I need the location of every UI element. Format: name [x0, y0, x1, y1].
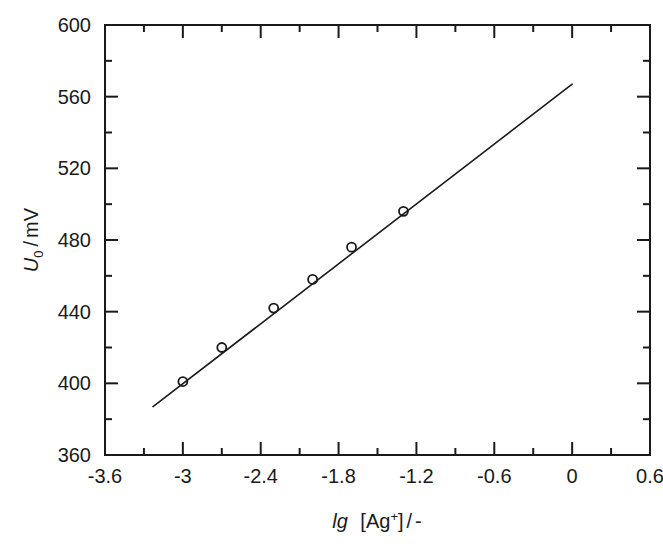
x-axis-title-separator: /	[407, 510, 413, 532]
x-axis-title: lg [Ag+]/-	[332, 509, 422, 532]
x-axis-title-bracket-open: [Ag	[360, 510, 390, 532]
y-axis-ticks	[105, 25, 650, 455]
y-tick-label: 600	[58, 14, 91, 36]
x-axis-title-charge: +	[390, 509, 398, 524]
data-point-marker	[347, 243, 356, 252]
y-axis-title: U0/mV	[20, 207, 46, 272]
x-axis-ticks	[105, 25, 650, 455]
y-axis-title-symbol: U	[20, 257, 42, 272]
data-point-markers	[178, 207, 408, 386]
y-axis-title-separator: /	[20, 240, 42, 246]
x-axis-title-bracket-close: ]	[398, 510, 404, 532]
x-axis-title-symbol: lg	[332, 510, 348, 532]
x-axis-tick-labels: -3.6-3-2.4-1.8-1.2-0.600.6	[88, 465, 663, 487]
y-tick-label: 560	[58, 86, 91, 108]
y-tick-label: 400	[58, 372, 91, 394]
linear-fit-line	[153, 84, 572, 407]
x-axis-title-unit: -	[415, 510, 422, 532]
x-tick-label: 0	[567, 465, 578, 487]
fit-line	[153, 84, 572, 407]
x-tick-label: -0.6	[477, 465, 511, 487]
y-tick-label: 360	[58, 444, 91, 466]
chart-figure: -3.6-3-2.4-1.8-1.2-0.600.6 3604004404805…	[0, 0, 663, 550]
y-axis-title-unit: mV	[20, 207, 42, 238]
y-tick-label: 520	[58, 157, 91, 179]
x-tick-label: -3	[174, 465, 192, 487]
x-tick-label: -1.2	[399, 465, 433, 487]
y-axis-title-subscript: 0	[31, 250, 46, 257]
y-axis-tick-labels: 360400440480520560600	[58, 14, 91, 466]
y-tick-label: 440	[58, 301, 91, 323]
plot-frame	[105, 25, 650, 455]
y-tick-label: 480	[58, 229, 91, 251]
data-point-marker	[269, 304, 278, 313]
x-tick-label: 0.6	[636, 465, 663, 487]
x-tick-label: -2.4	[243, 465, 277, 487]
plot-canvas: -3.6-3-2.4-1.8-1.2-0.600.6 3604004404805…	[0, 0, 663, 550]
data-point-marker	[308, 275, 317, 284]
data-point-marker	[217, 343, 226, 352]
x-tick-label: -3.6	[88, 465, 122, 487]
x-tick-label: -1.8	[321, 465, 355, 487]
